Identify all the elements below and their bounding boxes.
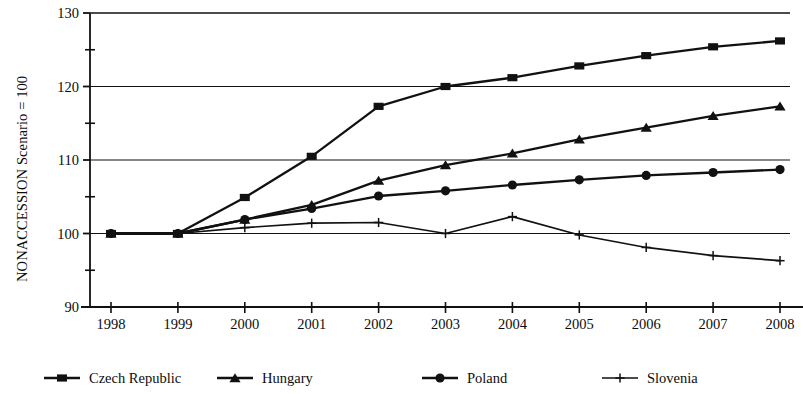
- x-tick-label-2007: 2007: [699, 316, 728, 332]
- x-tick-label-2001: 2001: [297, 316, 326, 332]
- marker-square: [374, 103, 384, 110]
- marker-plus: [508, 212, 517, 221]
- marker-circle: [307, 204, 316, 213]
- marker-plus: [709, 251, 718, 260]
- y-tick-label-100: 100: [57, 226, 79, 242]
- marker-square: [507, 74, 517, 81]
- marker-square: [641, 52, 651, 59]
- legend-marker-plus-icon: [600, 370, 640, 386]
- x-tick-label-2002: 2002: [364, 316, 393, 332]
- x-tick-label-1998: 1998: [97, 316, 126, 332]
- marker-circle: [575, 175, 584, 184]
- legend-item-slovenia[interactable]: Slovenia: [600, 362, 698, 394]
- legend-label: Hungary: [262, 371, 313, 386]
- marker-circle: [775, 165, 784, 174]
- marker-square: [240, 194, 250, 201]
- legend-item-czech-republic[interactable]: Czech Republic: [42, 362, 181, 394]
- marker-square: [708, 43, 718, 50]
- marker-circle: [508, 180, 517, 189]
- chart-legend: Czech RepublicHungaryPolandSlovenia: [0, 362, 803, 394]
- data-series-layer: [105, 37, 785, 265]
- legend-marker-circle-icon: [420, 370, 460, 386]
- marker-square: [775, 37, 785, 44]
- marker-plus: [575, 230, 584, 239]
- marker-plus: [307, 219, 316, 228]
- x-axis: 1998199920002001200220032004200520062007…: [81, 302, 803, 332]
- y-tick-label-120: 120: [57, 79, 79, 95]
- series-line: [111, 41, 780, 234]
- legend-item-hungary[interactable]: Hungary: [215, 362, 313, 394]
- x-tick-label-2003: 2003: [431, 316, 460, 332]
- gridlines: [90, 13, 790, 234]
- series-poland: [106, 165, 784, 238]
- x-tick-label-2005: 2005: [565, 316, 594, 332]
- legend-label: Czech Republic: [89, 371, 181, 386]
- marker-circle: [240, 215, 249, 224]
- x-tick-label-2000: 2000: [230, 316, 259, 332]
- marker-plus: [240, 223, 249, 232]
- x-tick-label-2004: 2004: [498, 316, 528, 332]
- marker-circle: [642, 171, 651, 180]
- y-tick-label-90: 90: [65, 299, 80, 315]
- legend-marker-triangle-icon: [215, 370, 255, 386]
- marker-circle: [441, 186, 450, 195]
- x-tick-label-2008: 2008: [766, 316, 795, 332]
- marker-circle: [709, 168, 718, 177]
- marker-square: [441, 83, 451, 90]
- legend-marker-square-icon: [42, 370, 82, 386]
- series-czech-republic: [106, 37, 785, 237]
- legend-label: Slovenia: [647, 371, 698, 386]
- legend-label: Poland: [467, 371, 507, 386]
- marker-circle: [435, 373, 444, 382]
- series-line: [111, 217, 780, 261]
- marker-square: [307, 153, 317, 160]
- marker-plus: [374, 218, 383, 227]
- legend-item-poland[interactable]: Poland: [420, 362, 507, 394]
- x-tick-label-2006: 2006: [632, 316, 661, 332]
- marker-plus: [441, 229, 450, 238]
- line-chart-figure: NONACCESSION Scenario = 100 901001101201…: [0, 0, 803, 394]
- y-axis: 90100110120130: [57, 5, 95, 315]
- marker-plus: [775, 256, 784, 265]
- y-tick-label-130: 130: [57, 5, 79, 21]
- series-slovenia: [106, 212, 784, 265]
- marker-plus: [642, 243, 651, 252]
- marker-square: [57, 374, 67, 381]
- series-line: [111, 170, 780, 234]
- plot-area: 90100110120130 1998199920002001200220032…: [0, 0, 803, 362]
- y-tick-label-110: 110: [58, 152, 79, 168]
- marker-square: [574, 62, 584, 69]
- x-tick-label-1999: 1999: [163, 316, 192, 332]
- marker-circle: [374, 191, 383, 200]
- marker-plus: [615, 373, 624, 382]
